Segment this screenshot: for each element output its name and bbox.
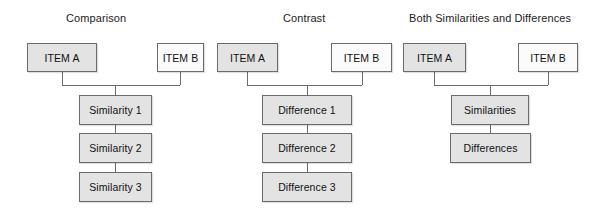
- node-box-contrast-item-1[interactable]: ITEM B: [331, 43, 392, 72]
- node-label: ITEM B: [163, 52, 199, 64]
- node-box-both-child-1[interactable]: Differences: [450, 133, 531, 163]
- node-box-comparison-child-2[interactable]: Similarity 3: [79, 172, 152, 202]
- node-label: ITEM B: [344, 52, 380, 64]
- column-title-both: Both Similarities and Differences: [409, 11, 571, 25]
- node-label: Differences: [463, 142, 517, 154]
- node-label: Difference 2: [278, 142, 336, 154]
- node-label: Similarities: [464, 104, 516, 116]
- node-box-both-item-1[interactable]: ITEM B: [518, 43, 578, 72]
- node-label: Difference 1: [278, 104, 336, 116]
- node-label: Similarity 1: [89, 104, 142, 116]
- node-label: ITEM B: [530, 52, 566, 64]
- node-box-comparison-child-1[interactable]: Similarity 2: [79, 133, 152, 163]
- node-label: ITEM A: [417, 52, 452, 64]
- node-box-comparison-item-1[interactable]: ITEM B: [157, 43, 204, 72]
- node-label: ITEM A: [44, 52, 79, 64]
- node-box-both-child-0[interactable]: Similarities: [451, 95, 529, 125]
- node-box-contrast-child-2[interactable]: Difference 3: [262, 172, 352, 202]
- column-title-contrast: Contrast: [283, 11, 325, 25]
- node-box-comparison-item-0[interactable]: ITEM A: [27, 43, 97, 72]
- node-box-contrast-item-0[interactable]: ITEM A: [217, 43, 278, 72]
- node-label: ITEM A: [230, 52, 265, 64]
- comparison-contrast-diagram: ComparisonITEM AITEM BSimilarity 1Simila…: [0, 0, 609, 216]
- node-label: Similarity 3: [89, 181, 142, 193]
- node-label: Difference 3: [278, 181, 336, 193]
- node-box-contrast-child-1[interactable]: Difference 2: [262, 133, 352, 163]
- node-box-both-item-0[interactable]: ITEM A: [403, 43, 466, 72]
- column-title-comparison: Comparison: [66, 11, 126, 25]
- node-box-contrast-child-0[interactable]: Difference 1: [262, 95, 352, 125]
- node-box-comparison-child-0[interactable]: Similarity 1: [79, 95, 152, 125]
- node-label: Similarity 2: [89, 142, 142, 154]
